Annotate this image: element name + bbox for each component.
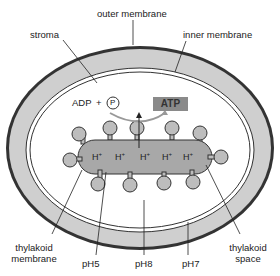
proton: H+: [162, 151, 172, 162]
label-ph8: pH8: [135, 258, 152, 269]
chloroplast-diagram: [0, 0, 280, 276]
proton: H+: [140, 151, 150, 162]
proton: H+: [183, 151, 193, 162]
label-phosphate: P: [110, 97, 115, 108]
label-thylakoid-space: thylakoid space: [222, 242, 274, 264]
label-adp: ADP: [72, 97, 92, 108]
label-stroma: stroma: [30, 29, 59, 40]
label-plus: +: [96, 97, 102, 108]
label-outer-membrane: outer membrane: [97, 8, 167, 19]
label-ph5: pH5: [82, 258, 99, 269]
label-ph7: pH7: [182, 258, 199, 269]
label-thylakoid-membrane: thylakoid membrane: [8, 242, 60, 264]
atp-box: ATP: [153, 97, 188, 111]
label-inner-membrane: inner membrane: [183, 29, 252, 40]
proton: H+: [115, 151, 125, 162]
proton: H+: [92, 151, 102, 162]
